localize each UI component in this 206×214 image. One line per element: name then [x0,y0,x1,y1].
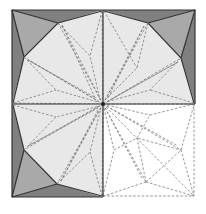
crease-pattern-diagram [0,0,206,214]
quadrant-top-left [12,10,103,104]
center-point [101,102,105,106]
quadrant-top-right [103,10,195,104]
quadrant-bottom-left [12,104,103,197]
